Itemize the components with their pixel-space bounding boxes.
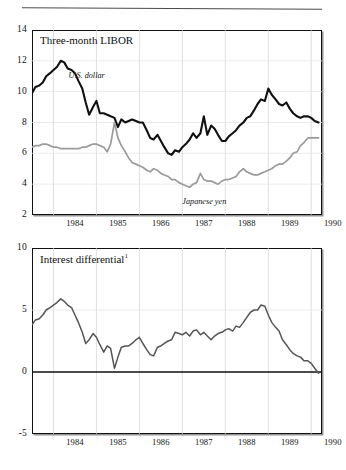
y-tick-label: 5 (2, 305, 27, 315)
x-tick-label: 1986 (143, 219, 179, 228)
x-tick-label: 1987 (186, 438, 222, 447)
x-tick-label: 1989 (272, 438, 308, 447)
x-tick-label: 1985 (100, 438, 136, 447)
x-tick-label: 1984 (57, 438, 93, 447)
x-tick-label: 1985 (100, 219, 136, 228)
series-label-u-s-dollar: U.S. dollar (69, 71, 105, 80)
x-tick-label: 1988 (229, 219, 265, 228)
title-footnote-marker: 1 (124, 252, 128, 260)
x-tick-label: 1990 (315, 219, 346, 228)
x-tick-label: 1989 (272, 219, 308, 228)
y-tick-label: 12 (2, 56, 27, 66)
y-tick-label: 10 (2, 87, 27, 97)
series-label-japanese-yen: Japanese yen (182, 197, 226, 206)
y-tick-label: 2 (2, 210, 27, 220)
x-tick-label: 1986 (143, 438, 179, 447)
plot-area-differential (32, 248, 322, 434)
x-tick-label: 1988 (229, 438, 265, 447)
y-tick-label: 8 (2, 118, 27, 128)
y-tick-label: 10 (2, 243, 27, 253)
header-rule (22, 7, 322, 9)
plot-area-libor (32, 30, 322, 215)
series-line-japanese-yen (32, 123, 319, 188)
y-tick-label: 14 (2, 25, 27, 35)
x-tick-label: 1990 (315, 438, 346, 447)
y-tick-label: 0 (2, 367, 27, 377)
x-tick-label: 1984 (57, 219, 93, 228)
x-tick-label: 1987 (186, 219, 222, 228)
chart-title-libor: Three-month LIBOR (40, 34, 133, 46)
y-tick-label: -5 (2, 429, 27, 439)
chart-title-differential: Interest differential1 (40, 252, 128, 265)
y-tick-label: 4 (2, 179, 27, 189)
y-tick-label: 6 (2, 148, 27, 158)
